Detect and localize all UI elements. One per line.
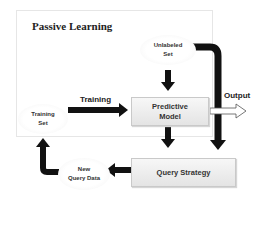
- unlabeled-set-node: Unlabeled Set: [140, 35, 196, 65]
- new-query-data-node: New Query Data: [58, 158, 110, 190]
- predictive-model-line2: Model: [159, 112, 181, 122]
- predictive-model-node: Predictive Model: [131, 97, 209, 126]
- training-set-node: Training Set: [18, 104, 68, 134]
- arrow-unlabeled-to-model: [161, 70, 175, 91]
- query-strategy-label: Query Strategy: [157, 168, 211, 178]
- output-edge-label: Output: [224, 91, 250, 100]
- new-query-data-line2: Query Data: [68, 174, 100, 183]
- arrow-new-data-to-training-set: [36, 138, 59, 172]
- query-strategy-node: Query Strategy: [131, 158, 236, 187]
- predictive-model-line1: Predictive: [152, 102, 188, 112]
- arrow-training: [68, 103, 128, 117]
- new-query-data-line1: New: [78, 165, 90, 174]
- training-set-line2: Set: [38, 119, 47, 128]
- unlabeled-set-line2: Set: [163, 50, 172, 59]
- unlabeled-set-line1: Unlabeled: [154, 41, 183, 50]
- training-set-line1: Training: [31, 110, 54, 119]
- training-edge-label: Training: [80, 95, 111, 104]
- arrow-model-to-query-strategy: [161, 126, 175, 148]
